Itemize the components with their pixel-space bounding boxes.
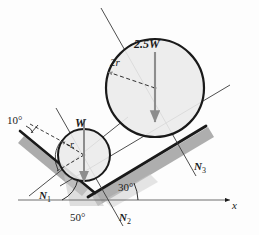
normal-1-label-group: N 1 — [38, 189, 51, 204]
angle-30-label: 30° — [118, 181, 133, 193]
normal-3-subscript: 3 — [202, 166, 206, 175]
top-left-angle-group: 10° — [7, 114, 74, 148]
mechanics-diagram-figure: x — [0, 0, 259, 235]
weight-small-label: W — [75, 116, 87, 130]
normal-1-subscript: 1 — [47, 195, 51, 204]
axis-x-label: x — [231, 199, 237, 211]
normal-2-label-group: N 2 — [118, 211, 131, 226]
normal-3-label-group: N 3 — [193, 160, 206, 175]
weight-large-label: 2.5W — [133, 37, 161, 51]
radius-2r-label: 2r — [110, 56, 121, 68]
angle-10-label: 10° — [7, 114, 22, 126]
normal-2-subscript: 2 — [127, 217, 131, 226]
diagram-canvas: x — [0, 0, 259, 235]
radius-r-label: r — [70, 139, 74, 150]
angle-50-label: 50° — [70, 211, 85, 223]
cylinders — [58, 39, 204, 181]
